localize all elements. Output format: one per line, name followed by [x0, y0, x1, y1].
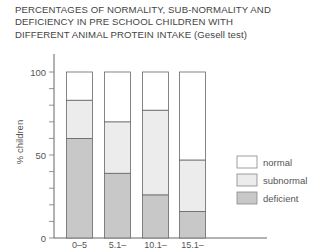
- bar-segment-normal: [67, 72, 93, 100]
- x-tick-label: 5.1–: [109, 240, 127, 249]
- bar-segment-subnormal: [105, 122, 131, 173]
- legend-label-normal: normal: [263, 157, 292, 168]
- bar-segment-subnormal: [143, 110, 169, 195]
- bar-segment-normal: [180, 72, 206, 160]
- y-tick-label: 100: [30, 67, 46, 78]
- bar-segment-normal: [143, 72, 169, 110]
- bar-segment-deficient: [180, 211, 206, 238]
- legend-swatch-deficient: [237, 192, 257, 204]
- bar-segment-normal: [105, 72, 131, 122]
- bar-segment-subnormal: [67, 100, 93, 138]
- legend-swatch-subnormal: [237, 174, 257, 186]
- legend-label-deficient: deficient: [263, 193, 299, 204]
- x-tick-label: 15.1–: [181, 240, 204, 249]
- y-tick-label: 0: [41, 233, 46, 244]
- y-axis-label: % children: [14, 120, 25, 164]
- x-tick-label: 10.1–: [144, 240, 167, 249]
- bar-segment-subnormal: [180, 160, 206, 211]
- bar-segment-deficient: [105, 173, 131, 238]
- legend-label-subnormal: subnormal: [263, 175, 307, 186]
- legend-swatch-normal: [237, 156, 257, 168]
- bar-segment-deficient: [143, 195, 169, 238]
- x-tick-label: 0–5: [72, 240, 87, 249]
- bar-segment-deficient: [67, 138, 93, 238]
- stacked-bar-chart: 050100% children0–55.1–10.1–15.1–normals…: [0, 0, 320, 249]
- y-tick-label: 50: [35, 150, 46, 161]
